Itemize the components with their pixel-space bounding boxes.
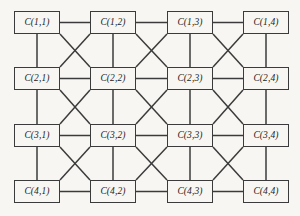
node-label-4-3: C(4,3) [177,187,202,197]
diagram-page: C(1,1)C(1,2)C(1,3)C(1,4)C(2,1)C(2,2)C(2,… [0,0,300,216]
node-label-4-4: C(4,4) [253,187,278,197]
node-label-1-3: C(1,3) [177,18,202,28]
node-label-2-1: C(2,1) [24,74,49,84]
node-box-3-2[interactable]: C(3,2) [90,124,136,147]
node-box-3-3[interactable]: C(3,3) [167,124,213,147]
node-box-4-1[interactable]: C(4,1) [14,180,60,203]
node-label-3-4: C(3,4) [253,131,278,141]
node-box-4-3[interactable]: C(4,3) [167,180,213,203]
node-label-1-1: C(1,1) [24,18,49,28]
node-box-4-4[interactable]: C(4,4) [243,180,289,203]
node-box-2-3[interactable]: C(2,3) [167,67,213,90]
node-box-3-4[interactable]: C(3,4) [243,124,289,147]
node-box-1-1[interactable]: C(1,1) [14,11,60,34]
node-box-4-2[interactable]: C(4,2) [90,180,136,203]
node-label-4-2: C(4,2) [100,187,125,197]
node-label-2-3: C(2,3) [177,74,202,84]
node-label-2-2: C(2,2) [100,74,125,84]
node-box-2-2[interactable]: C(2,2) [90,67,136,90]
node-label-3-2: C(3,2) [100,131,125,141]
node-box-2-1[interactable]: C(2,1) [14,67,60,90]
node-label-1-2: C(1,2) [100,18,125,28]
node-box-1-3[interactable]: C(1,3) [167,11,213,34]
node-box-2-4[interactable]: C(2,4) [243,67,289,90]
node-label-4-1: C(4,1) [24,187,49,197]
node-label-2-4: C(2,4) [253,74,278,84]
node-box-1-2[interactable]: C(1,2) [90,11,136,34]
node-box-1-4[interactable]: C(1,4) [243,11,289,34]
node-box-3-1[interactable]: C(3,1) [14,124,60,147]
node-label-3-1: C(3,1) [24,131,49,141]
node-label-3-3: C(3,3) [177,131,202,141]
node-label-1-4: C(1,4) [253,18,278,28]
